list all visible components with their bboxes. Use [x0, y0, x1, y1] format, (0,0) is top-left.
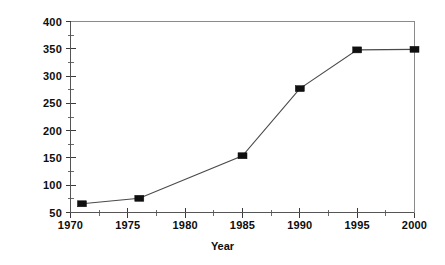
data-point-marker [135, 195, 144, 201]
data-point-marker [238, 153, 247, 159]
y-axis-tick-label: 50 [28, 207, 62, 219]
series-line-num-fields [82, 49, 415, 203]
data-point-marker [410, 46, 419, 52]
x-axis-tick-label: 1970 [58, 219, 83, 231]
x-axis-tick-label: 1985 [230, 219, 255, 231]
y-axis-tick-label: 150 [28, 152, 62, 164]
x-axis-tick-label: 1990 [287, 219, 312, 231]
y-axis-tick-label: 250 [28, 97, 62, 109]
x-axis-title: Year [0, 240, 445, 252]
series-markers [77, 46, 419, 206]
x-axis-tick-label: 2000 [402, 219, 427, 231]
y-axis-tick-label: 400 [28, 16, 62, 28]
data-point-marker [77, 201, 86, 207]
chart-figure: 50100150200250300350400 1970197519801985… [0, 0, 445, 265]
data-point-marker [353, 47, 362, 53]
data-point-marker [295, 86, 304, 92]
y-axis-tick-label: 100 [28, 179, 62, 191]
y-axis-tick-label: 300 [28, 70, 62, 82]
x-axis-tick-label: 1975 [115, 219, 140, 231]
x-axis-tick-label: 1980 [173, 219, 198, 231]
y-axis-tick-label: 200 [28, 125, 62, 137]
y-axis-tick-label: 350 [28, 43, 62, 55]
x-axis-tick-label: 1995 [345, 219, 370, 231]
